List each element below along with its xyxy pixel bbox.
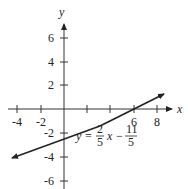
- svg-text:x −: x −: [106, 129, 123, 143]
- equation-annotation: y = 2 5 x − 11 5: [75, 122, 138, 149]
- x-axis-label: x: [176, 102, 183, 116]
- svg-text:y =: y =: [75, 129, 92, 143]
- svg-text:5: 5: [97, 135, 103, 149]
- y-tick-label: 6: [48, 31, 54, 45]
- y-tick-label: 2: [48, 78, 54, 92]
- y-tick-label: -2: [44, 126, 54, 140]
- chart: x -4 -2 6 8 y 6 4 2 -2 -4 -6 y = 2 5 x −…: [0, 0, 188, 189]
- y-axis-label: y: [58, 5, 65, 19]
- y-tick-label: -4: [44, 150, 54, 164]
- svg-text:2: 2: [97, 122, 103, 136]
- svg-text:5: 5: [128, 135, 134, 149]
- y-tick-label: 4: [48, 55, 54, 69]
- svg-text:11: 11: [126, 122, 138, 136]
- x-tick-label: -4: [12, 115, 22, 129]
- x-axis: x -4 -2 6 8: [8, 102, 183, 129]
- y-axis: y 6 4 2 -2 -4 -6: [44, 5, 68, 189]
- x-tick-label: 8: [154, 115, 160, 129]
- y-tick-label: -6: [44, 174, 54, 188]
